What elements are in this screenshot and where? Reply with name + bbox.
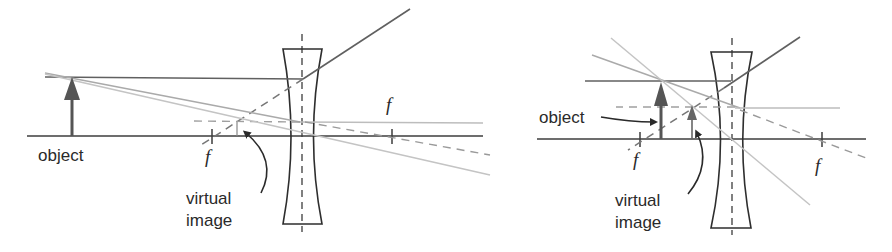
object-arrow-head — [654, 82, 668, 106]
lens-diagrams: object virtual image f f object — [0, 0, 892, 252]
virtual-image-label-line2: image — [186, 211, 232, 230]
ray-focal-virtual-extension — [190, 121, 300, 122]
focal-label-left: f — [633, 149, 641, 170]
ray-parallel-refracted — [303, 9, 410, 79]
ray-parallel — [45, 77, 303, 79]
ray-focal-dashed-continuation — [740, 110, 866, 158]
object-callout-arrow — [601, 117, 654, 122]
object-label: object — [38, 146, 84, 165]
focal-label-right: f — [815, 155, 823, 176]
object-label: object — [539, 108, 585, 127]
ray-focal-refracted — [300, 122, 483, 123]
virtual-image-label-line1: virtual — [186, 189, 231, 208]
ray-focal — [45, 73, 300, 122]
virtual-image-label-line2: image — [615, 213, 661, 232]
ray-focal-dashed-continuation — [305, 122, 490, 155]
virtual-image-callout-arrow — [688, 133, 703, 194]
diagram-right: object virtual image f f — [537, 37, 866, 235]
focal-label-right: f — [386, 94, 394, 115]
ray-parallel-refracted — [724, 37, 800, 88]
object-arrow-head — [64, 77, 80, 100]
virtual-image-callout-arrow — [246, 133, 267, 193]
virtual-image-label-line1: virtual — [615, 191, 660, 210]
diagram-left: object virtual image f f — [27, 9, 490, 232]
ray-center — [45, 74, 490, 175]
focal-label-left: f — [205, 146, 213, 167]
